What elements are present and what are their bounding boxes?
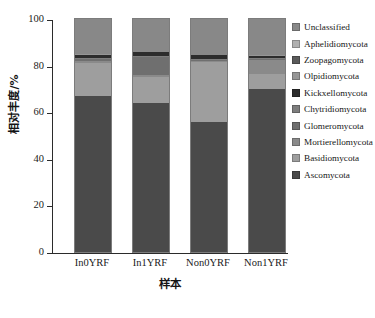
legend-swatch-icon (292, 72, 300, 80)
bar-segment (249, 74, 285, 89)
legend-label: Zoopagomycota (304, 55, 364, 65)
legend-swatch-icon (292, 56, 300, 64)
y-tick-label: 80 (18, 61, 44, 71)
legend-swatch-icon (292, 154, 300, 162)
legend-item-basidiomycota[interactable]: Basidiomycota (292, 150, 375, 166)
y-tick-label: 20 (18, 200, 44, 210)
legend-swatch-icon (292, 23, 300, 31)
legend-label: Olpidiomycota (304, 71, 359, 81)
legend-label: Glomeromycota (304, 121, 364, 131)
y-tick-mark (47, 253, 52, 254)
bar-segment (249, 60, 285, 74)
y-tick-label: 0 (18, 247, 44, 257)
legend-item-aphelidiomycota[interactable]: Aphelidiomycota (292, 35, 375, 51)
legend-label: Unclassified (304, 22, 350, 32)
legend-label: Kickxellomycota (304, 88, 367, 98)
legend-label: Aphelidiomycota (304, 39, 368, 49)
bar-segment (133, 19, 169, 52)
plot-area (52, 20, 288, 253)
legend-item-chytridiomycota[interactable]: Chytridiomycota (292, 101, 375, 117)
legend-label: Basidiomycota (304, 153, 359, 163)
legend-item-zoopagomycota[interactable]: Zoopagomycota (292, 52, 375, 68)
bar-segment (191, 19, 227, 54)
stacked-bar-chart-figure: 相对丰度/% 020406080100 In0YRFIn1YRFNon0YRFN… (0, 0, 375, 318)
bar-segment (75, 96, 111, 252)
legend-label: Chytridiomycota (304, 104, 366, 114)
legend-swatch-icon (292, 138, 300, 146)
bar-segment (75, 19, 111, 53)
legend-swatch-icon (292, 105, 300, 113)
stacked-bar-non0yrf[interactable] (190, 18, 228, 253)
legend-swatch-icon (292, 40, 300, 48)
y-tick-label: 100 (18, 14, 44, 24)
y-tick-label: 60 (18, 107, 44, 117)
legend-item-ascomycota[interactable]: Ascomycota (292, 167, 375, 183)
bar-segment (133, 103, 169, 252)
y-axis-title: 相对丰度/% (5, 59, 21, 149)
legend-swatch-icon (292, 171, 300, 179)
legend-swatch-icon (292, 89, 300, 97)
x-axis-title: 样本 (52, 275, 288, 291)
bar-segment (191, 62, 227, 121)
x-axis-line (52, 253, 288, 254)
legend-item-mortierellomycota[interactable]: Mortierellomycota (292, 134, 375, 150)
bar-segment (191, 122, 227, 252)
stacked-bar-non1yrf[interactable] (248, 18, 286, 253)
x-tick-label-non1yrf: Non1YRF (231, 257, 301, 269)
chart-legend: UnclassifiedAphelidiomycotaZoopagomycota… (292, 19, 375, 183)
bar-segment (249, 19, 285, 55)
legend-item-kickxellomycota[interactable]: Kickxellomycota (292, 85, 375, 101)
stacked-bar-in0yrf[interactable] (74, 18, 112, 253)
legend-item-olpidiomycota[interactable]: Olpidiomycota (292, 68, 375, 84)
y-tick-label: 40 (18, 154, 44, 164)
legend-swatch-icon (292, 122, 300, 130)
stacked-bar-in1yrf[interactable] (132, 18, 170, 253)
legend-item-glomeromycota[interactable]: Glomeromycota (292, 117, 375, 133)
bar-segment (75, 63, 111, 96)
legend-label: Mortierellomycota (304, 137, 373, 147)
legend-label: Ascomycota (304, 170, 350, 180)
bar-segment (249, 89, 285, 252)
bar-segment (133, 57, 169, 75)
bar-segment (133, 77, 169, 103)
legend-item-unclassified[interactable]: Unclassified (292, 19, 375, 35)
